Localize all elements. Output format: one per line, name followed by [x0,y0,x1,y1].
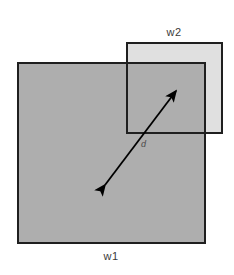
window-2-label: w2 [57,26,234,38]
diagram-canvas: w2 w1 d [0,0,234,275]
distance-label: d [141,139,146,149]
window-1-rect[interactable] [18,63,205,243]
overlapping-windows-figure [0,0,234,275]
window-1-label: w1 [0,250,228,262]
